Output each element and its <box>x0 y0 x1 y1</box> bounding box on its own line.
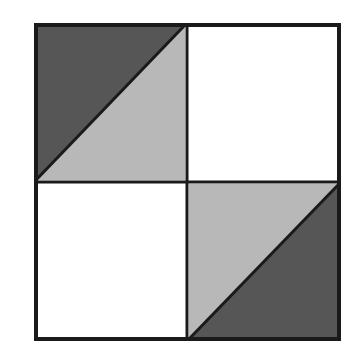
quadrant-square-figure <box>0 0 360 361</box>
quadrant-top-left <box>36 25 185 180</box>
quadrant-bottom-right <box>189 184 339 339</box>
figure-canvas: Two-by-two quadrant square with shaded t… <box>0 0 360 361</box>
quadrant-top-right <box>189 25 339 180</box>
quadrant-bottom-left <box>36 184 185 339</box>
bottom-left-white-square <box>36 184 185 339</box>
top-right-white-square <box>189 25 339 180</box>
